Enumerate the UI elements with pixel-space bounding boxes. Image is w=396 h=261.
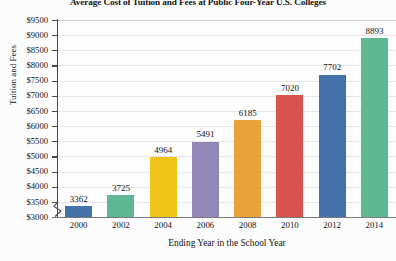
bar[interactable] [319,75,346,218]
y-axis-tick-label: $3000 [0,213,48,222]
y-axis-tick [52,111,57,112]
bar[interactable] [192,142,219,217]
x-axis-tick-label: 2006 [181,221,229,230]
y-axis-tick-label: $6500 [0,107,48,116]
y-axis-tick-label: $5000 [0,152,48,161]
plot-area: 33623725496454916185702077028893 [58,20,396,217]
gridline [58,50,396,51]
y-axis-tick [52,35,57,36]
y-axis-tick [52,141,57,142]
chart-title: Average Cost of Tuition and Fees at Publ… [0,0,396,7]
x-axis-tick-label: 2008 [224,221,272,230]
y-axis-tick [52,50,57,51]
y-axis-tick [52,187,57,188]
gridline [58,35,396,36]
y-axis-tick-label: $9000 [0,31,48,40]
bar-value-label: 6185 [224,109,272,118]
y-axis-tick-label: $8500 [0,46,48,55]
x-axis-tick-label: 2012 [308,221,356,230]
gridline [58,20,396,21]
x-axis-tick-label: 2000 [55,221,103,230]
bar-value-label: 3725 [97,184,145,193]
bar-value-label: 7020 [266,84,314,93]
y-axis-tick-label: $4500 [0,167,48,176]
y-axis-tick-label: $5500 [0,137,48,146]
y-axis-line [57,19,58,218]
y-axis-tick [52,20,57,21]
y-axis-tick-label: $8000 [0,61,48,70]
bar[interactable] [107,195,134,217]
y-axis-tick-label: $7000 [0,91,48,100]
bar-value-label: 5491 [181,130,229,139]
chart-figure: Average Cost of Tuition and Fees at Publ… [0,0,396,261]
x-axis-tick-label: 2014 [350,221,396,230]
x-axis-tick-label: 2004 [139,221,187,230]
y-axis-tick-label: $7500 [0,76,48,85]
bar-value-label: 4964 [139,146,187,155]
bar-value-label: 8893 [350,27,396,36]
x-axis-title: Ending Year in the School Year [58,238,396,248]
y-axis-tick [52,65,57,66]
y-axis-tick [52,126,57,127]
axis-break-icon [51,200,65,218]
bar[interactable] [276,95,303,217]
bar[interactable] [234,120,261,217]
bar[interactable] [361,38,388,217]
bar[interactable] [150,157,177,217]
y-axis-tick-label: $9500 [0,16,48,25]
y-axis-tick [52,172,57,173]
x-axis-tick-label: 2002 [97,221,145,230]
y-axis-tick [52,96,57,97]
x-axis-line [52,217,396,218]
y-axis-tick [52,156,57,157]
y-axis-tick [52,81,57,82]
y-axis-tick-label: $3500 [0,198,48,207]
bar[interactable] [65,206,92,217]
x-axis-tick-label: 2010 [266,221,314,230]
bar-value-label: 7702 [308,63,356,72]
y-axis-tick-label: $6000 [0,122,48,131]
y-axis-tick-label: $4000 [0,182,48,191]
